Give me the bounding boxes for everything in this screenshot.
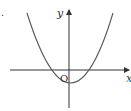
x-axis-label: x: [126, 72, 131, 85]
marker-dot: .: [1, 7, 4, 18]
parabola-graph: y x O .: [0, 0, 131, 111]
origin-label: O: [60, 73, 68, 84]
y-axis-label: y: [56, 7, 64, 20]
parabola-curve: [27, 13, 113, 83]
